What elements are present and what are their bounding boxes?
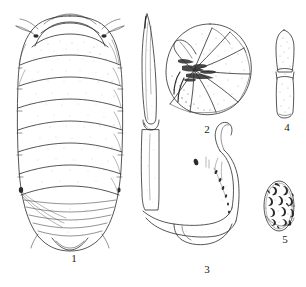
figure-2-conglobated-body — [160, 20, 256, 124]
figure-1-label: 1 — [67, 252, 81, 264]
figure-5-label: 5 — [278, 233, 292, 245]
figure-3-label: 3 — [200, 263, 214, 275]
figure-2-label: 2 — [200, 123, 214, 135]
figure-5-oval-granular-structure — [258, 178, 302, 236]
figure-1-dorsal-habitus — [8, 10, 132, 255]
figure-4-antenna-tip — [270, 26, 300, 122]
illustration-plate: 1 — [0, 0, 306, 287]
figure-4-label: 4 — [280, 121, 294, 133]
